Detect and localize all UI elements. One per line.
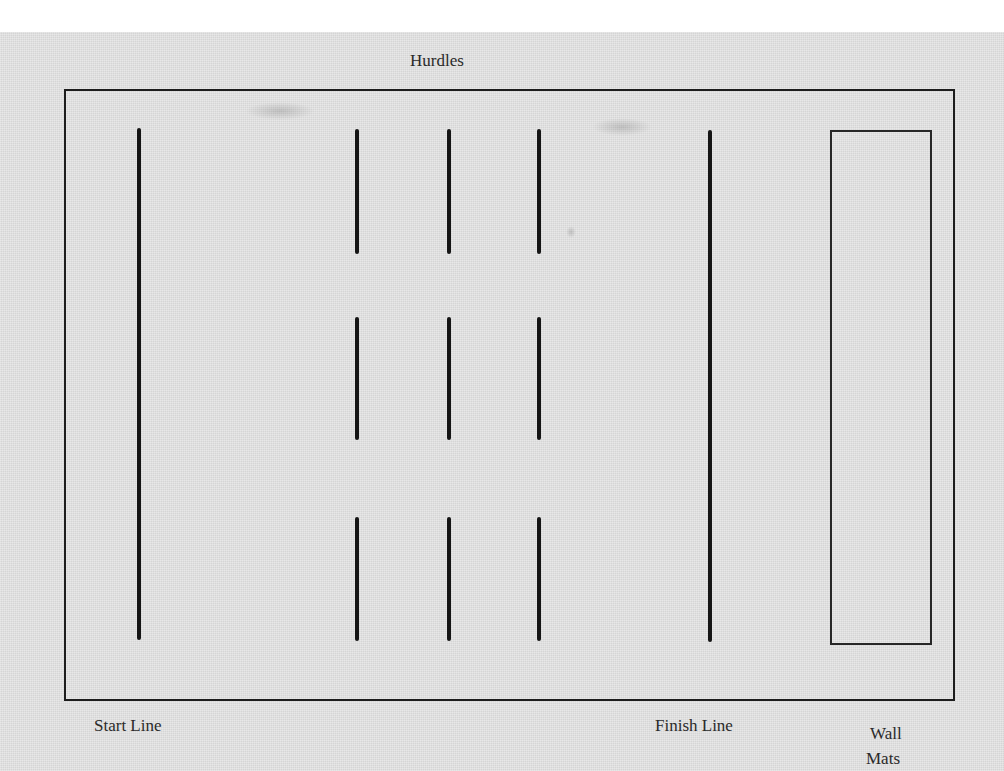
hurdles-title: Hurdles [410,52,464,69]
finish-line [708,130,712,642]
wall-mats-area [830,130,932,645]
hurdle-row2-col3 [537,317,541,440]
gym-floor-boundary [64,89,955,701]
hurdle-row1-col1 [355,129,359,254]
scan-smudge [592,118,652,136]
hurdle-row1-col2 [447,129,451,254]
wall-mats-label-line2: Mats [866,750,900,767]
hurdle-row3-col1 [355,517,359,641]
hurdle-row3-col2 [447,517,451,641]
hurdle-row2-col1 [355,317,359,440]
hurdle-row1-col3 [537,129,541,254]
start-line-label: Start Line [94,717,162,734]
hurdle-row3-col3 [537,517,541,641]
wall-mats-label-line1: Wall [870,725,902,742]
scan-smudge [245,102,315,120]
scan-smudge [566,226,576,238]
hurdle-row2-col2 [447,317,451,440]
start-line [137,128,141,640]
finish-line-label: Finish Line [655,717,733,734]
